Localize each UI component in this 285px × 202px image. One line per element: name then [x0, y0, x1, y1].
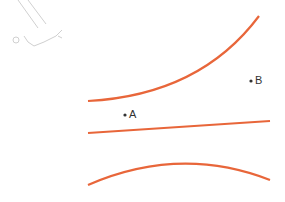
diagram-canvas: A B	[0, 0, 285, 202]
middle-line	[88, 121, 270, 133]
point-b-label: B	[255, 75, 262, 86]
lower-curve	[88, 164, 270, 185]
point-a-label: A	[129, 109, 136, 120]
point-a-dot	[123, 113, 126, 116]
faint-sketch	[13, 0, 62, 46]
upper-curve	[88, 16, 259, 101]
diagram-svg	[0, 0, 285, 202]
point-b-dot	[249, 79, 252, 82]
